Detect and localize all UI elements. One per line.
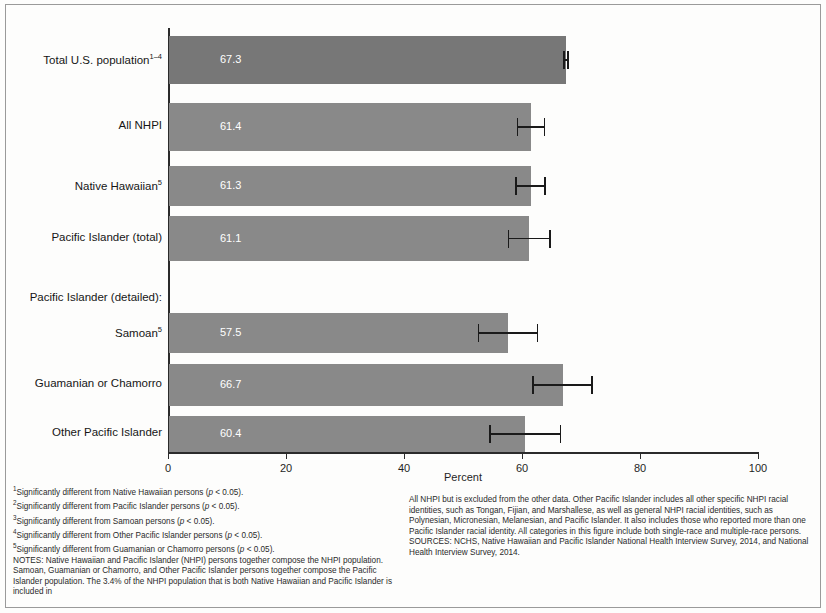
footnote-text: Significantly different from Guamanian o… bbox=[17, 545, 240, 554]
sources-paragraph: SOURCES: NCHS, Native Hawaiian and Pacif… bbox=[409, 537, 809, 558]
error-bar-cap bbox=[567, 51, 569, 69]
category-label: Native Hawaiian5 bbox=[0, 178, 162, 192]
category-label: Other Pacific Islander bbox=[0, 426, 162, 438]
error-bar-line bbox=[517, 126, 544, 128]
error-bar-cap bbox=[537, 324, 539, 342]
footnote-tail: < 0.05). bbox=[232, 531, 262, 540]
footnote: 1Significantly different from Native Haw… bbox=[13, 484, 401, 498]
bar-value-label: 67.3 bbox=[220, 53, 241, 65]
category-label-text: Samoan bbox=[115, 327, 158, 339]
error-bar-cap bbox=[517, 118, 519, 136]
error-bar-cap bbox=[478, 324, 480, 342]
bar-value-label: 61.3 bbox=[220, 179, 241, 191]
category-group-header: Pacific Islander (detailed): bbox=[0, 291, 162, 303]
x-tick bbox=[522, 452, 523, 459]
error-bar-cap bbox=[532, 376, 534, 394]
x-axis-line bbox=[168, 452, 758, 454]
error-bar-cap bbox=[560, 425, 562, 443]
x-tick bbox=[286, 452, 287, 459]
error-bar-cap bbox=[508, 230, 510, 248]
bar-value-label: 57.5 bbox=[220, 326, 241, 338]
footnotes-left-column: 1Significantly different from Native Haw… bbox=[13, 484, 401, 598]
x-tick bbox=[404, 452, 405, 459]
category-label: Total U.S. population1–4 bbox=[0, 52, 162, 66]
category-label: Guamanian or Chamorro bbox=[0, 377, 162, 389]
category-label-text: All NHPI bbox=[119, 119, 162, 131]
category-label-superscript: 5 bbox=[158, 325, 162, 334]
error-bar-line bbox=[489, 433, 560, 435]
bar-value-label: 60.4 bbox=[220, 427, 241, 439]
error-bar-cap bbox=[549, 230, 551, 248]
footnote-tail: < 0.05). bbox=[184, 516, 214, 525]
error-bar-cap bbox=[544, 118, 546, 136]
category-label-text: Other Pacific Islander bbox=[52, 426, 162, 438]
footnote-tail: < 0.05). bbox=[209, 502, 239, 511]
category-label: Pacific Islander (total) bbox=[0, 231, 162, 243]
category-label-text: Total U.S. population bbox=[43, 54, 149, 66]
footnote: 5Significantly different from Guamanian … bbox=[13, 541, 401, 555]
category-label-superscript: 1–4 bbox=[149, 52, 162, 61]
bar-value-label: 61.1 bbox=[220, 232, 241, 244]
error-bar-cap bbox=[544, 177, 546, 195]
bar-value-label: 61.4 bbox=[220, 120, 241, 132]
error-bar-cap bbox=[489, 425, 491, 443]
error-bar-line bbox=[478, 332, 537, 334]
footnote-text: Significantly different from Other Pacif… bbox=[17, 531, 228, 540]
footnote-text: Significantly different from Native Hawa… bbox=[17, 488, 209, 497]
category-label-superscript: 5 bbox=[158, 178, 162, 187]
error-bar-line bbox=[532, 384, 591, 386]
category-label-text: Guamanian or Chamorro bbox=[35, 377, 162, 389]
footnote: 2Significantly different from Pacific Is… bbox=[13, 498, 401, 512]
error-bar-cap bbox=[591, 376, 593, 394]
error-bar-line bbox=[515, 185, 545, 187]
footnote: 3Significantly different from Samoan per… bbox=[13, 513, 401, 527]
bar-value-label: 66.7 bbox=[220, 378, 241, 390]
category-label: Samoan5 bbox=[0, 325, 162, 339]
category-label: All NHPI bbox=[0, 119, 162, 131]
x-axis-title: Percent bbox=[168, 471, 758, 483]
footnote-text: Significantly different from Samoan pers… bbox=[17, 516, 180, 525]
x-tick bbox=[758, 452, 759, 459]
footnote-tail: < 0.05). bbox=[244, 545, 274, 554]
category-label-text: Pacific Islander (total) bbox=[51, 231, 162, 243]
figure-container: Total U.S. population1–4All NHPINative H… bbox=[0, 0, 826, 613]
error-bar-line bbox=[508, 238, 549, 240]
footnote: 4Significantly different from Other Paci… bbox=[13, 527, 401, 541]
footnotes-right-column: All NHPI but is excluded from the other … bbox=[409, 495, 809, 559]
plot-area: 020406080100 67.361.461.361.157.566.760.… bbox=[168, 28, 758, 452]
footnote-text: Significantly different from Pacific Isl… bbox=[17, 502, 205, 511]
x-tick bbox=[640, 452, 641, 459]
notes-paragraph: NOTES: Native Hawaiian and Pacific Islan… bbox=[13, 556, 401, 598]
error-bar-cap bbox=[563, 51, 565, 69]
category-label-text: Native Hawaiian bbox=[75, 180, 158, 192]
footnote-tail: < 0.05). bbox=[213, 488, 243, 497]
notes-continued: All NHPI but is excluded from the other … bbox=[409, 495, 809, 537]
x-tick bbox=[168, 452, 169, 459]
error-bar-cap bbox=[515, 177, 517, 195]
